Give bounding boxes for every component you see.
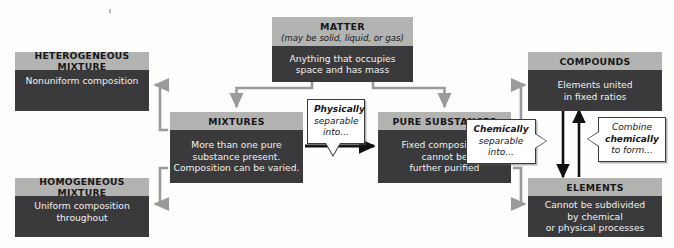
box-elements-title: ELEMENTS bbox=[566, 182, 623, 193]
arrow-mixtures-to-homogeneous bbox=[155, 168, 168, 204]
box-homogeneous-mixture-line2: throughout bbox=[56, 212, 107, 224]
box-mixtures: MIXTURES More than one pure substance pr… bbox=[170, 112, 303, 183]
callout-physically-emphasis: Physically bbox=[314, 104, 358, 116]
arrow-pure-substances-to-elements bbox=[513, 168, 525, 204]
callout-chemically-line1: separable bbox=[473, 136, 529, 148]
box-elements-header: ELEMENTS bbox=[528, 178, 662, 196]
box-compounds-header: COMPOUNDS bbox=[528, 52, 662, 70]
box-pure-substances-line2: cannot be bbox=[422, 151, 468, 163]
callout-combine-emphasis: chemically bbox=[605, 134, 659, 146]
box-mixtures-line3: Composition can be varied. bbox=[174, 162, 300, 174]
box-compounds: COMPOUNDS Elements united in fixed ratio… bbox=[528, 52, 662, 111]
diagram-canvas: MATTER (may be solid, liquid, or gas) An… bbox=[0, 0, 674, 248]
box-compounds-line1: Elements united bbox=[557, 79, 632, 91]
box-mixtures-title: MIXTURES bbox=[208, 116, 264, 127]
box-matter-header: MATTER (may be solid, liquid, or gas) bbox=[272, 17, 413, 46]
box-compounds-title: COMPOUNDS bbox=[559, 56, 630, 67]
box-mixtures-header: MIXTURES bbox=[170, 112, 303, 130]
box-homogeneous-mixture-title: HOMOGENEOUS MIXTURE bbox=[15, 176, 149, 198]
box-homogeneous-mixture: HOMOGENEOUS MIXTURE Uniform composition … bbox=[15, 178, 149, 237]
box-heterogeneous-mixture-header: HETEROGENEOUS MIXTURE bbox=[15, 52, 149, 70]
box-elements: ELEMENTS Cannot be subdivided by chemica… bbox=[528, 178, 662, 237]
box-homogeneous-mixture-line1: Uniform composition bbox=[34, 200, 129, 212]
callout-physically-line2: into... bbox=[314, 127, 358, 139]
box-heterogeneous-mixture-body: Nonuniform composition bbox=[15, 70, 149, 111]
box-matter-line2: space and has mass bbox=[296, 64, 389, 76]
box-heterogeneous-mixture: HETEROGENEOUS MIXTURE Nonuniform composi… bbox=[15, 52, 149, 111]
box-homogeneous-mixture-body: Uniform composition throughout bbox=[15, 196, 149, 237]
box-matter-body: Anything that occupies space and has mas… bbox=[272, 46, 413, 82]
box-elements-line2: by chemical bbox=[567, 211, 622, 223]
box-matter-subtitle: (may be solid, liquid, or gas) bbox=[281, 33, 404, 43]
callout-chemically-separable: Chemically separable into... bbox=[466, 119, 536, 164]
box-mixtures-line1: More than one pure bbox=[191, 139, 281, 151]
box-matter-line1: Anything that occupies bbox=[289, 53, 395, 65]
box-compounds-line2: in fixed ratios bbox=[564, 91, 627, 103]
box-heterogeneous-mixture-title: HETEROGENEOUS MIXTURE bbox=[15, 50, 149, 72]
arrow-matter-to-pure-substances bbox=[373, 80, 445, 107]
callout-chemically-emphasis: Chemically bbox=[473, 124, 529, 136]
box-elements-body: Cannot be subdivided by chemical or phys… bbox=[528, 196, 662, 237]
box-elements-line1: Cannot be subdivided bbox=[545, 199, 645, 211]
box-mixtures-body: More than one pure substance present. Co… bbox=[170, 130, 303, 183]
box-homogeneous-mixture-header: HOMOGENEOUS MIXTURE bbox=[15, 178, 149, 196]
box-pure-substances-line3: further purified bbox=[410, 162, 480, 174]
box-elements-line3: or physical processes bbox=[546, 222, 645, 234]
callout-physically-line1: separable bbox=[314, 116, 358, 128]
callout-chemically-line2: into... bbox=[473, 147, 529, 159]
scan-speck bbox=[109, 9, 111, 13]
box-mixtures-line2: substance present. bbox=[193, 151, 281, 163]
callout-physically-tail-fill bbox=[326, 143, 340, 155]
box-matter-title: MATTER bbox=[320, 21, 365, 32]
callout-combine-line2: to form... bbox=[605, 145, 659, 157]
box-compounds-body: Elements united in fixed ratios bbox=[528, 70, 662, 111]
callout-combine-chemically: Combine chemically to form... bbox=[598, 117, 666, 162]
callout-combine-line1: Combine bbox=[605, 122, 659, 134]
box-matter: MATTER (may be solid, liquid, or gas) An… bbox=[272, 17, 413, 82]
arrow-mixtures-to-heterogeneous bbox=[155, 85, 168, 130]
arrow-matter-to-mixtures bbox=[237, 80, 313, 107]
callout-combine-tail-fill bbox=[588, 132, 599, 146]
box-heterogeneous-mixture-line1: Nonuniform composition bbox=[26, 75, 139, 87]
callout-physically-separable: Physically separable into... bbox=[307, 99, 365, 144]
callout-chemically-tail-fill bbox=[535, 134, 546, 148]
